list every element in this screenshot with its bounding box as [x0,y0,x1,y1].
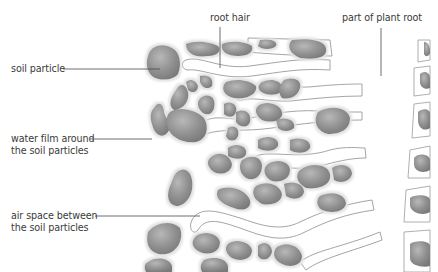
label-plant-root: part of plant root [342,12,422,24]
label-water-film-line2: the soil particles [11,145,88,157]
soil-root-diagram: soil particle water film around the soil… [0,0,438,272]
label-air-space-line2: the soil particles [11,222,88,234]
label-air-space-line1: air space between [11,210,98,222]
label-water-film-line1: water film around [11,133,95,145]
label-soil-particle: soil particle [11,63,65,75]
label-root-hair: root hair [210,12,250,24]
